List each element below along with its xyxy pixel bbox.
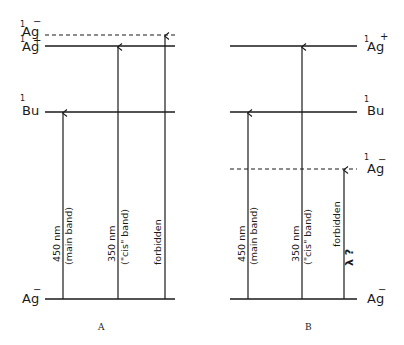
label-b-350nm: 350 nm	[290, 226, 301, 262]
label-a-450nm: 450 nm	[51, 226, 62, 262]
energy-level-diagram: 1 Ag − 1 Ag + 1 Bu Ag − 450 nm (main ban…	[0, 0, 404, 345]
label-a-forbidden: forbidden	[152, 219, 163, 265]
label-a-top-sign: −	[33, 16, 41, 27]
caption-a: A	[97, 322, 105, 332]
label-a-second-sign: +	[33, 35, 41, 46]
label-a-bu-spin: 1	[20, 94, 25, 103]
panel-a: 1 Ag − 1 Ag + 1 Bu Ag − 450 nm (main ban…	[20, 16, 175, 332]
label-b-1ag-sign: −	[378, 154, 386, 165]
label-a-bu-symbol: Bu	[22, 103, 39, 118]
label-b-top-sign: +	[380, 31, 388, 42]
label-a-ground-sign: −	[33, 284, 41, 295]
label-b-ground-sign: −	[378, 284, 386, 295]
label-b-forbidden: forbidden	[331, 201, 342, 247]
label-b-main-band: (main band)	[248, 207, 259, 265]
label-a-350nm: 350 nm	[106, 226, 117, 262]
label-b-bu-symbol: Bu	[367, 103, 384, 118]
label-a-main-band: (main band)	[63, 207, 74, 265]
label-b-lambda-question: λ ?	[343, 249, 356, 266]
caption-b: B	[305, 322, 312, 332]
label-b-cis-band: ("cis" band)	[302, 209, 313, 265]
label-b-450nm: 450 nm	[236, 226, 247, 262]
panel-b: 1 Ag + 1 Bu 1 Ag − Ag − 450 nm (main ban…	[230, 31, 388, 332]
label-a-cis-band: ("cis" band)	[119, 209, 130, 265]
